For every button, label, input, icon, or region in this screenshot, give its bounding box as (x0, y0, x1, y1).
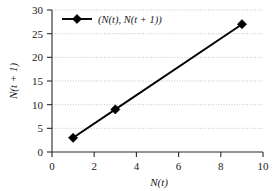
chart-canvas: 30 25 20 15 10 5 0 0 2 4 6 8 10 N(t) N(t… (0, 0, 280, 191)
legend-entry-label: (N(t), N(t + 1)) (98, 14, 162, 26)
chart-figure: 30 25 20 15 10 5 0 0 2 4 6 8 10 N(t) N(t… (0, 0, 280, 191)
x-tick-label-2: 2 (91, 160, 97, 172)
x-tick-label-10: 10 (258, 160, 270, 172)
x-tick-labels: 0 2 4 6 8 10 (49, 160, 269, 172)
x-tick-label-4: 4 (134, 160, 140, 172)
y-tick-label-30: 30 (32, 4, 44, 16)
y-tickmarks (47, 10, 52, 152)
x-tickmarks (52, 152, 263, 157)
y-tick-label-25: 25 (32, 28, 44, 40)
y-tick-label-5: 5 (38, 122, 44, 134)
x-axis-title: N(t) (149, 176, 168, 189)
y-tick-labels: 30 25 20 15 10 5 0 (32, 4, 44, 158)
x-tick-label-6: 6 (176, 160, 182, 172)
y-tick-label-0: 0 (38, 146, 44, 158)
y-axis-title: N(t + 1) (7, 63, 20, 100)
x-tick-label-0: 0 (49, 160, 55, 172)
y-tick-label-10: 10 (32, 99, 44, 111)
y-tick-label-20: 20 (32, 51, 44, 63)
x-tick-label-8: 8 (218, 160, 224, 172)
y-tick-label-15: 15 (32, 75, 44, 87)
